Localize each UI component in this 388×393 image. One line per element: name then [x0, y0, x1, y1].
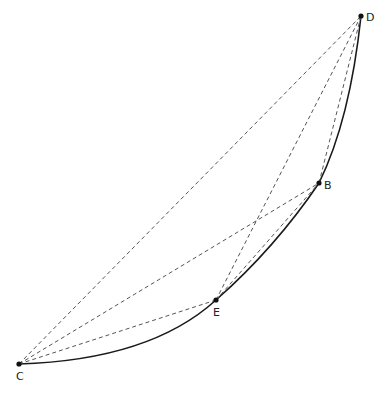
- label-E: E: [213, 306, 220, 319]
- labels: CEBD: [16, 11, 374, 383]
- dashed-lines: [19, 16, 361, 364]
- dashed-segment-EB: [216, 183, 319, 300]
- point-B: [316, 180, 321, 185]
- dashed-segment-ED: [216, 16, 361, 300]
- diagram-canvas: CEBD: [0, 0, 388, 393]
- point-E: [213, 297, 218, 302]
- label-C: C: [16, 370, 24, 383]
- dashed-segment-CB: [19, 183, 319, 364]
- point-D: [358, 13, 363, 18]
- label-B: B: [324, 179, 332, 192]
- dashed-segment-CD: [19, 16, 361, 364]
- dashed-segment-BD: [319, 16, 361, 183]
- point-C: [16, 361, 21, 366]
- label-D: D: [366, 11, 374, 24]
- dashed-segment-CE: [19, 300, 216, 364]
